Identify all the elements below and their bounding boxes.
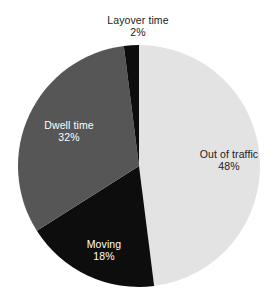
pie-label-out-of-traffic-name: Out of traffic — [186, 148, 272, 160]
pie-chart: Layover time 2% Out of traffic 48% Dwell… — [0, 0, 278, 300]
pie-label-dwell-time: Dwell time 32% — [24, 119, 114, 144]
pie-label-layover-time-name: Layover time — [78, 14, 198, 26]
pie-label-moving: Moving 18% — [62, 238, 146, 263]
pie-label-moving-name: Moving — [62, 238, 146, 250]
pie-label-dwell-time-value: 32% — [24, 131, 114, 143]
pie-label-layover-time-value: 2% — [78, 26, 198, 38]
pie-label-dwell-time-name: Dwell time — [24, 119, 114, 131]
pie-label-out-of-traffic: Out of traffic 48% — [186, 148, 272, 173]
pie-label-out-of-traffic-value: 48% — [186, 160, 272, 172]
pie-label-layover-time: Layover time 2% — [78, 14, 198, 39]
pie-label-moving-value: 18% — [62, 250, 146, 262]
